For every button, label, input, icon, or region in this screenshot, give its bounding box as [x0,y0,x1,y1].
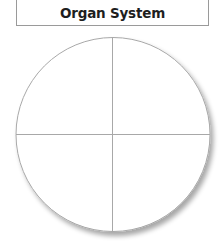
quartered-circle-diagram [0,0,224,245]
